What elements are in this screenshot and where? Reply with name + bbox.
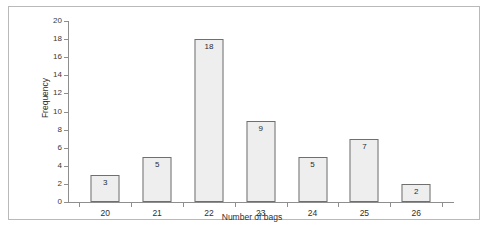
y-tick-mark — [64, 166, 69, 167]
bar-value-label: 3 — [92, 178, 119, 188]
bar: 18 — [194, 39, 223, 202]
bar-value-label: 2 — [403, 187, 430, 197]
x-tick-mark — [131, 202, 132, 207]
y-tick-label: 20 — [53, 15, 62, 26]
y-tick-mark — [64, 75, 69, 76]
y-tick-mark — [64, 202, 69, 203]
bar: 5 — [143, 157, 172, 202]
bar: 3 — [91, 175, 120, 202]
bar-value-label: 5 — [144, 160, 171, 170]
bar: 9 — [246, 121, 275, 202]
bar-value-label: 9 — [247, 124, 274, 134]
bar: 7 — [350, 139, 379, 202]
y-tick-label: 6 — [58, 142, 62, 153]
y-tick-mark — [64, 148, 69, 149]
y-tick-label: 4 — [58, 160, 62, 171]
bar: 5 — [298, 157, 327, 202]
bar: 2 — [402, 184, 431, 202]
figure-frame: Frequency 02468101214161820 35189572 202… — [8, 6, 480, 220]
y-tick-mark — [64, 112, 69, 113]
y-tick-mark — [64, 93, 69, 94]
plot-area: 02468101214161820 35189572 2021222324252… — [68, 21, 454, 203]
figure-caption — [8, 228, 478, 237]
bar-value-label: 7 — [351, 142, 378, 152]
x-axis-title: Number of bags — [59, 212, 445, 222]
y-tick-label: 10 — [53, 106, 62, 117]
x-tick-mark — [235, 202, 236, 207]
y-tick-label: 12 — [53, 87, 62, 98]
y-tick-mark — [64, 57, 69, 58]
y-tick-label: 16 — [53, 51, 62, 62]
x-tick-mark — [338, 202, 339, 207]
x-axis-title-label: Number of bags — [222, 212, 282, 222]
x-tick-mark — [79, 202, 80, 207]
y-tick-label: 0 — [58, 196, 62, 207]
y-tick-label: 14 — [53, 69, 62, 80]
y-tick-label: 18 — [53, 33, 62, 44]
bar-value-label: 5 — [299, 160, 326, 170]
x-axis-line — [68, 202, 454, 203]
y-tick-mark — [64, 130, 69, 131]
y-tick-mark — [64, 184, 69, 185]
x-tick-mark — [442, 202, 443, 207]
y-tick-mark — [64, 21, 69, 22]
bar-value-label: 18 — [195, 42, 222, 52]
y-tick-mark — [64, 39, 69, 40]
x-tick-mark — [183, 202, 184, 207]
y-axis-title-label: Frequency — [40, 78, 50, 118]
x-tick-mark — [287, 202, 288, 207]
y-tick-label: 8 — [58, 124, 62, 135]
x-tick-mark — [390, 202, 391, 207]
y-tick-label: 2 — [58, 178, 62, 189]
